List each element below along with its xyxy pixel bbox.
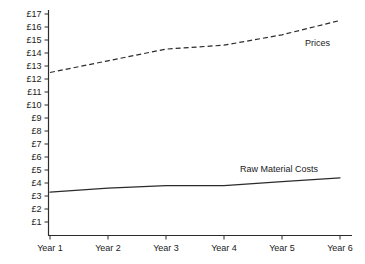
y-tick-label: £8	[31, 126, 41, 136]
chart-canvas: £17£16£15£14£13£12£11£10£9£8£7£6£5£4£3£2…	[0, 0, 365, 264]
x-axis-ticks	[50, 236, 340, 240]
x-tick-label: Year 3	[153, 243, 179, 253]
series-line-raw-material-costs	[50, 178, 340, 192]
y-tick-label: £15	[26, 35, 41, 45]
y-tick-label: £6	[31, 152, 41, 162]
x-axis-labels: Year 1Year 2Year 3Year 4Year 5Year 6	[37, 243, 353, 253]
x-tick-label: Year 2	[95, 243, 121, 253]
y-tick-label: £5	[31, 165, 41, 175]
x-tick-label: Year 4	[211, 243, 237, 253]
y-tick-label: £14	[26, 48, 41, 58]
y-tick-label: £3	[31, 191, 41, 201]
y-tick-label: £10	[26, 100, 41, 110]
y-tick-label: £16	[26, 22, 41, 32]
y-tick-label: £7	[31, 139, 41, 149]
x-tick-label: Year 5	[269, 243, 295, 253]
y-tick-label: £2	[31, 204, 41, 214]
series-line-prices	[50, 21, 340, 73]
y-tick-label: £12	[26, 74, 41, 84]
x-tick-label: Year 6	[327, 243, 353, 253]
series-label-prices: Prices	[305, 38, 331, 48]
y-tick-label: £17	[26, 9, 41, 19]
y-tick-label: £4	[31, 178, 41, 188]
series-label-raw-material-costs: Raw Material Costs	[240, 164, 319, 174]
x-tick-label: Year 1	[37, 243, 63, 253]
y-tick-label: £1	[31, 217, 41, 227]
y-tick-label: £11	[27, 87, 41, 97]
y-tick-label: £13	[26, 61, 41, 71]
y-axis-labels: £17£16£15£14£13£12£11£10£9£8£7£6£5£4£3£2…	[26, 9, 41, 227]
y-tick-label: £9	[31, 113, 41, 123]
line-chart: £17£16£15£14£13£12£11£10£9£8£7£6£5£4£3£2…	[0, 0, 365, 264]
